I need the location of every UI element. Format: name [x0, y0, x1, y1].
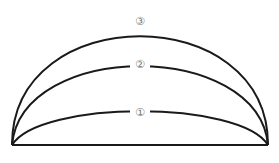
arc-3	[12, 36, 268, 145]
arc-diagram: ③ ② ①	[0, 0, 279, 163]
arc-label-1: ①	[135, 106, 145, 119]
arc-label-2: ②	[135, 58, 145, 71]
arc-label-3: ③	[135, 15, 145, 28]
